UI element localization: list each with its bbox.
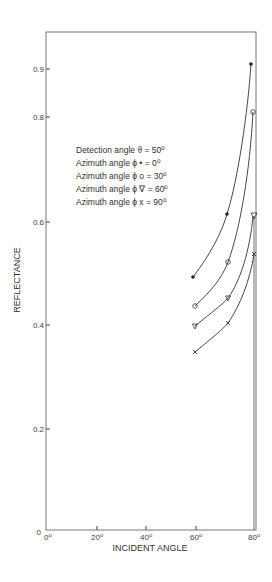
legend-detection-angle: Detection angle ϑ = 50⁰ <box>76 145 165 155</box>
y-axis-label: REFLECTANCE <box>12 247 22 312</box>
filled-dot-marker-icon <box>191 275 195 279</box>
plot-frame <box>46 32 256 530</box>
series-phi-0-line <box>193 64 251 277</box>
y-tick-0.9: 0.9 <box>33 65 45 74</box>
x-marker-icon <box>193 350 197 354</box>
legend-item-60: Azimuth angle ϕ ∇ = 60⁰ <box>76 184 169 194</box>
y-axis <box>46 69 50 429</box>
y-tick-0: 0 <box>37 528 42 537</box>
x-tick-40: 40o <box>140 532 153 542</box>
x-marker-icon <box>226 321 230 325</box>
y-tick-0.8: 0.8 <box>33 113 45 122</box>
series-phi-30-line <box>195 112 253 306</box>
y-tick-0.4: 0.4 <box>33 321 45 330</box>
legend-item-0: Azimuth angle ϕ • = 0⁰ <box>76 158 161 168</box>
legend-item-30: Azimuth angle ϕ o = 30⁰ <box>76 171 167 181</box>
x-axis-label: INCIDENT ANGLE <box>113 543 188 553</box>
triangle-marker-icon <box>193 324 198 329</box>
series-phi-90-markers <box>193 252 256 354</box>
x-tick-0: 0o <box>44 532 52 542</box>
x-ticks: 0o 20o 40o 60o 80o <box>44 532 261 542</box>
y-tick-0.2: 0.2 <box>33 425 45 434</box>
y-tick-0.6: 0.6 <box>33 218 45 227</box>
series-phi-90-line <box>195 254 254 352</box>
series-phi-0-markers <box>191 62 253 279</box>
x-tick-80: 80o <box>248 532 261 542</box>
filled-dot-marker-icon <box>249 62 253 66</box>
legend: Detection angle ϑ = 50⁰ Azimuth angle ϕ … <box>76 145 169 207</box>
series-lines <box>193 64 254 530</box>
chart: 0.9 0.8 0.6 0.4 0.2 0 0o 20o 40o 60o 80o… <box>0 0 272 582</box>
x-axis <box>97 526 196 530</box>
x-tick-60: 60o <box>190 532 203 542</box>
series-phi-60-markers <box>193 213 258 329</box>
filled-dot-marker-icon <box>225 212 229 216</box>
x-tick-20: 20o <box>91 532 104 542</box>
series-phi-30-markers <box>193 110 256 309</box>
legend-item-90: Azimuth angle ϕ x = 90⁰ <box>76 197 167 207</box>
